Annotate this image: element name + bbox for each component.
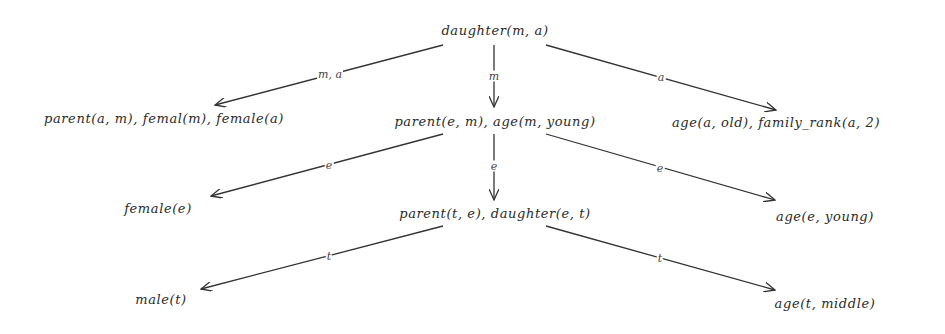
edges-layer: [0, 0, 945, 334]
node-l1-mid: parent(e, m), age(m, young): [394, 114, 595, 129]
edge-label-l1mid-l2-left: e: [325, 160, 334, 171]
tree-diagram: daughter(m, a) parent(a, m), femal(m), f…: [0, 0, 945, 334]
node-l2-mid: parent(t, e), daughter(e, t): [399, 206, 591, 221]
edge-label-root-l1-mid: m: [488, 71, 500, 82]
node-root: daughter(m, a): [441, 23, 548, 38]
edge-label-l2mid-l3-left: t: [326, 251, 332, 262]
edge-label-l1mid-l2-right: e: [656, 163, 665, 174]
node-l2-left: female(e): [124, 201, 192, 216]
node-l3-left: male(t): [135, 292, 187, 307]
edge-label-l2mid-l3-right: t: [657, 253, 663, 264]
node-l2-right: age(e, young): [776, 209, 874, 224]
edge-label-root-l1-right: a: [657, 72, 666, 83]
edge-l2-mid-to-l3-left: [201, 226, 443, 289]
edge-label-l1mid-l2-mid: e: [490, 161, 499, 172]
node-l1-right: age(a, old), family_rank(a, 2): [672, 115, 880, 130]
node-l1-left: parent(a, m), femal(m), female(a): [44, 111, 284, 126]
edge-label-root-l1-left: m, a: [317, 69, 343, 80]
node-l3-right: age(t, middle): [775, 296, 876, 311]
